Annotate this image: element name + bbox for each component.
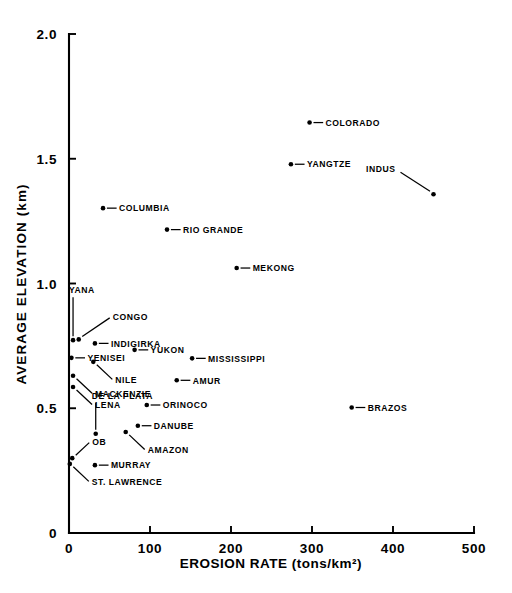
data-point-marker[interactable] [70,456,75,461]
data-point-label: AMAZON [148,445,189,455]
scatter-plot: 0100200300400500 00.51.01.52.0 COLORADOY… [0,0,512,593]
data-point-marker[interactable] [69,356,74,361]
x-tick-label: 300 [300,541,324,556]
data-point-marker[interactable] [144,403,149,408]
leader-line [129,435,145,450]
data-point-label: YANA [69,285,95,295]
data-point-label: COLORADO [326,118,381,128]
label-leader-lines [73,123,430,482]
y-axis-title: AVERAGE ELEVATION (km) [14,183,29,384]
leader-line [76,443,90,456]
data-point-marker[interactable] [136,423,141,428]
x-axis-tick-labels: 0100200300400500 [65,541,486,556]
data-point-label: AMUR [193,376,221,386]
data-point-label: YUKON [151,345,185,355]
data-point-marker[interactable] [93,341,98,346]
data-point-label: MISSISSIPPI [208,354,265,364]
data-point-marker[interactable] [71,374,76,379]
x-tick-label: 100 [138,541,162,556]
data-point-label: ST. LAWRENCE [92,477,163,487]
data-point-label: MEKONG [253,263,295,273]
data-point-marker[interactable] [234,266,239,271]
leader-line [97,365,113,380]
x-tick-label: 0 [65,541,73,556]
y-axis-tick-labels: 00.51.01.52.0 [36,27,57,541]
y-tick-label: 0 [49,526,57,541]
data-point-label: YANGTZE [307,159,351,169]
x-axis-title: EROSION RATE (tons/km²) [180,556,362,571]
data-point-label: MURRAY [111,460,151,470]
leader-line [77,379,93,394]
data-point-marker[interactable] [307,120,312,125]
data-point-marker[interactable] [68,462,73,467]
data-point-label: ORINOCO [163,400,208,410]
data-point-marker[interactable] [431,192,436,197]
data-point-label: COLUMBIA [119,203,170,213]
data-point-marker[interactable] [123,430,128,435]
data-point-marker[interactable] [190,356,195,361]
axes [69,34,474,533]
data-point-labels: COLORADOYANGTZEINDUSCOLUMBIARIO GRANDEME… [69,118,407,487]
data-point-label: DE LA PLATA [92,391,153,401]
data-point-marker[interactable] [93,463,98,468]
data-point-label: LENA [95,400,121,410]
data-point-marker[interactable] [71,338,76,343]
leader-line [82,318,110,337]
data-point-marker[interactable] [71,385,76,390]
data-point-label: NILE [115,375,137,385]
erosion-rate-elevation-scatter-figure: 0100200300400500 00.51.01.52.0 COLORADOY… [0,0,512,593]
data-point-marker[interactable] [101,206,106,211]
x-tick-label: 200 [219,541,243,556]
x-tick-label: 500 [462,541,486,556]
data-point-label: YENISEI [87,353,125,363]
data-point-marker[interactable] [93,431,98,436]
data-point-label: RIO GRANDE [183,225,243,235]
y-tick-label: 2.0 [36,27,57,42]
y-tick-label: 1.5 [36,152,57,167]
leader-line [77,390,93,405]
x-tick-label: 400 [381,541,405,556]
data-point-marker[interactable] [349,405,354,410]
y-tick-label: 0.5 [36,401,57,416]
leader-line [73,467,89,482]
data-point-label: DANUBE [154,421,194,431]
y-tick-label: 1.0 [36,277,57,292]
data-point-label: OB [92,437,106,447]
data-point-label: INDUS [366,164,396,174]
data-point-marker[interactable] [76,337,81,342]
data-point-label: CONGO [113,312,148,322]
data-point-marker[interactable] [289,162,294,167]
data-point-marker[interactable] [165,227,170,232]
data-point-marker[interactable] [174,378,179,383]
leader-line [401,172,431,191]
data-point-label: BRAZOS [368,403,408,413]
